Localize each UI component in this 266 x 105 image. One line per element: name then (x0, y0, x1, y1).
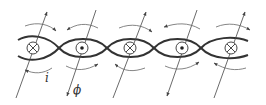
field-arrow-top-3 (119, 25, 152, 32)
flux-line-1 (16, 12, 47, 98)
field-arrow-bottom-5 (214, 63, 246, 70)
loop-4 (176, 42, 188, 54)
field-arrow-top-4 (164, 24, 200, 29)
loop-3 (124, 42, 136, 54)
field-arrow-bottom-3 (115, 64, 145, 71)
loop-2 (76, 42, 88, 54)
loop-5 (225, 42, 237, 54)
twisted-pair-diagram: i ϕ (0, 0, 266, 105)
field-arrow-top-5 (216, 24, 250, 30)
field-arrow-top-2 (67, 24, 98, 30)
current-label: i (45, 71, 49, 85)
loop-1 (27, 42, 39, 54)
field-arrow-bottom-4 (165, 62, 199, 69)
flux-line-5 (214, 12, 245, 98)
field-arrow-bottom-2 (66, 64, 98, 70)
flux-label: ϕ (73, 83, 81, 97)
